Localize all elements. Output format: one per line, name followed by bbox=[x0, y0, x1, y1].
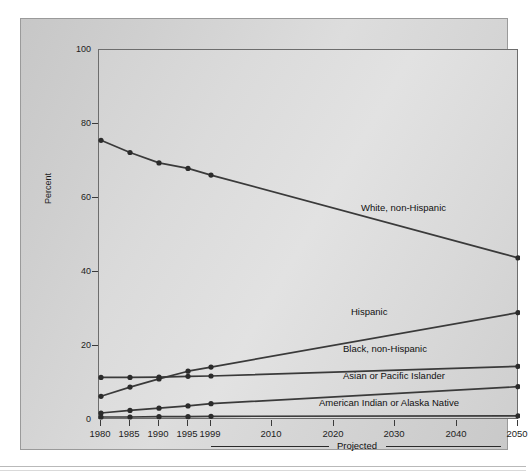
data-point bbox=[208, 365, 213, 370]
x-tick-label-2010: 2010 bbox=[251, 429, 291, 439]
projected-rule-left bbox=[211, 446, 329, 447]
y-tick-label-40: 40 bbox=[57, 267, 91, 276]
data-point bbox=[127, 150, 132, 155]
data-point bbox=[208, 173, 213, 178]
data-point bbox=[156, 375, 161, 380]
data-point bbox=[515, 310, 520, 315]
data-point bbox=[185, 369, 190, 374]
x-tick-label-2050: 2050 bbox=[497, 429, 532, 439]
series-line-0 bbox=[101, 140, 518, 258]
data-point bbox=[127, 385, 132, 390]
data-point bbox=[98, 375, 103, 380]
x-tick-label-2040: 2040 bbox=[436, 429, 476, 439]
x-tick-label-1999: 1999 bbox=[190, 429, 230, 439]
data-point bbox=[127, 408, 132, 413]
data-point bbox=[185, 166, 190, 171]
data-point bbox=[515, 384, 520, 389]
series-label-black: Black, non-Hispanic bbox=[343, 344, 427, 354]
plot-area bbox=[98, 49, 518, 419]
series-label-asian: Asian or Pacific Islander bbox=[343, 371, 445, 381]
series-label-aian: American Indian or Alaska Native bbox=[319, 398, 459, 408]
data-point bbox=[208, 373, 213, 378]
series-line-1 bbox=[101, 313, 518, 397]
series-label-white: White, non-Hispanic bbox=[361, 203, 446, 213]
y-tick-label-80: 80 bbox=[57, 119, 91, 128]
series-canvas bbox=[98, 49, 520, 421]
data-point bbox=[208, 414, 213, 419]
y-tick-label-0: 0 bbox=[57, 415, 91, 424]
data-point bbox=[98, 414, 103, 419]
x-tick-label-2030: 2030 bbox=[374, 429, 414, 439]
data-point bbox=[185, 403, 190, 408]
data-point bbox=[98, 394, 103, 399]
y-tick-label-60: 60 bbox=[57, 193, 91, 202]
data-point bbox=[515, 364, 520, 369]
data-point bbox=[156, 406, 161, 411]
chart-panel: Percent 100 80 60 40 20 0 1980 1985 1990… bbox=[20, 18, 508, 450]
data-point bbox=[156, 160, 161, 165]
series-line-2 bbox=[101, 366, 518, 377]
data-point bbox=[98, 138, 103, 143]
y-axis-title: Percent bbox=[43, 173, 53, 204]
data-point bbox=[185, 414, 190, 419]
data-point bbox=[515, 413, 520, 418]
y-tick-label-100: 100 bbox=[57, 45, 91, 54]
footer-rule-top bbox=[0, 466, 526, 467]
data-point bbox=[127, 414, 132, 419]
data-point bbox=[156, 414, 161, 419]
data-point bbox=[127, 375, 132, 380]
projected-bracket: Projected bbox=[211, 439, 501, 453]
projected-rule-right bbox=[386, 446, 501, 447]
x-tick-label-2020: 2020 bbox=[313, 429, 353, 439]
data-point bbox=[208, 401, 213, 406]
series-line-4 bbox=[101, 416, 518, 417]
data-point bbox=[185, 374, 190, 379]
footer-rule-bottom bbox=[0, 470, 526, 471]
series-label-hispanic: Hispanic bbox=[351, 307, 387, 317]
projected-label: Projected bbox=[331, 439, 383, 452]
y-tick-label-20: 20 bbox=[57, 341, 91, 350]
data-point bbox=[515, 255, 520, 260]
